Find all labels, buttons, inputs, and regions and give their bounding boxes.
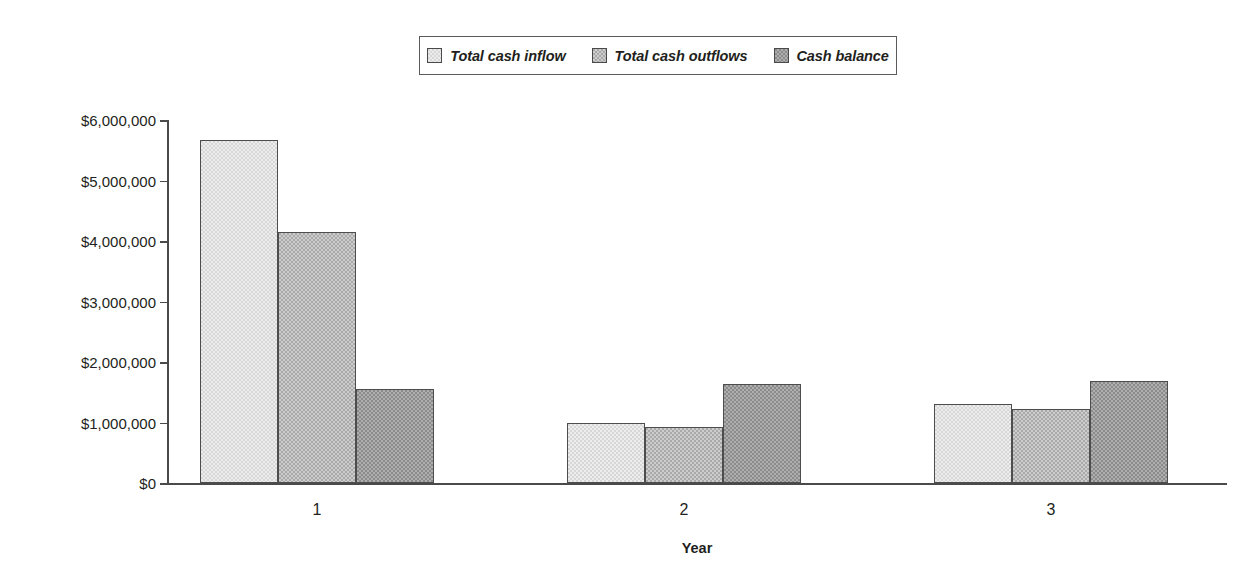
- y-tick-label: $6,000,000: [16, 112, 156, 129]
- y-tick: [160, 302, 167, 304]
- bar-1-year-3: [934, 404, 1012, 483]
- y-tick: [160, 483, 167, 485]
- x-tick-label-3: 3: [1047, 501, 1056, 519]
- legend-label-series-2: Total cash outflows: [615, 48, 748, 64]
- legend-entry-cash-balance: Cash balance: [774, 48, 889, 64]
- bar-1-year-1: [200, 140, 278, 483]
- bar-2-year-2: [645, 427, 723, 483]
- x-tick-label-1: 1: [313, 501, 322, 519]
- bar-3-year-1: [356, 389, 434, 483]
- y-tick-label: $5,000,000: [16, 172, 156, 189]
- legend-entry-total-cash-inflow: Total cash inflow: [427, 48, 565, 64]
- y-tick-label: $3,000,000: [16, 293, 156, 310]
- y-axis-line: [167, 120, 169, 483]
- y-tick: [160, 120, 167, 122]
- x-axis-line: [167, 483, 1227, 485]
- bar-1-year-2: [567, 423, 645, 484]
- y-tick-label: $0: [16, 475, 156, 492]
- y-tick: [160, 241, 167, 243]
- bar-3-year-2: [723, 384, 801, 483]
- bar-2-year-1: [278, 232, 356, 483]
- x-tick-label-2: 2: [680, 501, 689, 519]
- legend-entry-total-cash-outflows: Total cash outflows: [592, 48, 748, 64]
- bar-chart: Total cash inflow Total cash outflows Ca…: [0, 0, 1253, 578]
- plot-area: $0$1,000,000$2,000,000$3,000,000$4,000,0…: [167, 120, 1227, 483]
- y-tick-label: $2,000,000: [16, 354, 156, 371]
- y-tick-label: $1,000,000: [16, 414, 156, 431]
- series-1-swatch-icon: [427, 48, 442, 63]
- chart-legend: Total cash inflow Total cash outflows Ca…: [419, 36, 897, 75]
- x-axis-title: Year: [167, 540, 1227, 556]
- series-2-swatch-icon: [592, 48, 607, 63]
- series-3-swatch-icon: [774, 48, 789, 63]
- legend-label-series-3: Cash balance: [797, 48, 889, 64]
- y-tick-label: $4,000,000: [16, 233, 156, 250]
- bar-2-year-3: [1012, 409, 1090, 483]
- legend-label-series-1: Total cash inflow: [450, 48, 565, 64]
- y-tick: [160, 423, 167, 425]
- y-tick: [160, 362, 167, 364]
- bar-3-year-3: [1090, 381, 1168, 483]
- y-tick: [160, 181, 167, 183]
